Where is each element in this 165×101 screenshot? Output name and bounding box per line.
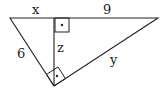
- label-6: 6: [17, 46, 25, 61]
- triangle-diagram: x 9 6 z y: [0, 0, 165, 101]
- right-angle-dot-bottom: [56, 75, 58, 77]
- right-angle-dot-top: [61, 24, 63, 26]
- label-x: x: [32, 2, 40, 17]
- label-9: 9: [103, 2, 111, 17]
- label-y: y: [109, 52, 118, 67]
- label-z: z: [57, 40, 64, 55]
- outer-triangle: [10, 18, 158, 86]
